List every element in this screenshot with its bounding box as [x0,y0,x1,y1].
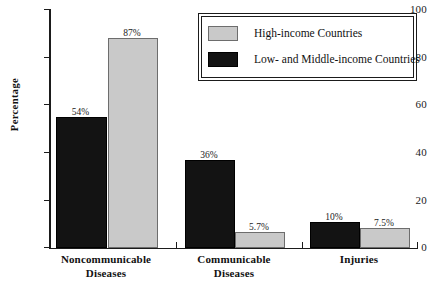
bar-value-noncommunicable-high-income: 87% [108,28,156,38]
legend-label-high-income: High-income Countries [254,27,362,40]
legend-swatch-high-income [208,26,238,41]
bar-noncommunicable-low-middle-income [56,117,107,248]
y-tick-60 [44,104,50,105]
y-tick-40 [44,152,50,153]
legend-label-low-middle-income: Low- and Middle-income Countries [254,53,420,66]
bar-value-noncommunicable-low-middle-income: 54% [56,107,105,117]
legend: High-income Countries Low- and Middle-in… [198,13,417,81]
bar-value-communicable-high-income: 5.7% [235,222,283,232]
bar-injuries-high-income [360,228,410,248]
bar-communicable-high-income [235,232,285,248]
y-tick-0 [44,247,50,248]
x-category-label-injuries: Injuries [294,253,424,267]
y-tick-100 [44,9,50,10]
bar-chart: Percentage 100 80 60 40 20 0 54% 87% Non… [0,0,427,291]
x-category-label-noncommunicable-line1: Noncommunicable [61,253,151,265]
x-category-label-injuries-line1: Injuries [340,253,378,265]
bar-noncommunicable-high-income [108,38,158,248]
legend-item-high-income: High-income Countries [208,22,412,44]
bar-value-communicable-low-middle-income: 36% [185,150,233,160]
x-tick-sep-1 [176,242,177,248]
y-axis-title: Percentage [9,60,20,150]
x-category-label-communicable: CommunicableDiseases [169,253,299,280]
legend-swatch-low-middle-income [208,52,238,67]
y-tick-20 [44,200,50,201]
x-category-label-communicable-line1: Communicable [197,253,270,265]
bar-value-injuries-low-middle-income: 10% [310,212,358,222]
x-tick-end [417,242,418,248]
legend-item-low-middle-income: Low- and Middle-income Countries [208,48,412,70]
y-tick-label-60: 60 [389,99,427,110]
x-category-label-noncommunicable: NoncommunicableDiseases [41,253,171,280]
y-axis-line [49,9,51,249]
x-category-label-communicable-line2: Diseases [214,267,254,279]
y-tick-80 [44,57,50,58]
y-tick-label-20: 20 [389,195,427,206]
bar-communicable-low-middle-income [185,160,235,248]
x-tick-sep-2 [302,242,303,248]
x-category-label-noncommunicable-line2: Diseases [86,267,126,279]
bar-injuries-low-middle-income [310,222,360,248]
y-tick-label-40: 40 [389,147,427,158]
bar-value-injuries-high-income: 7.5% [360,218,408,228]
